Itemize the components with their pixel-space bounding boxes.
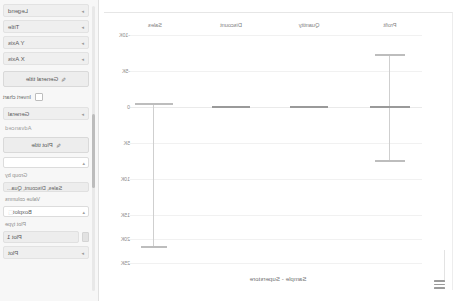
plot-title-button[interactable]: ✎ Plot title [3, 137, 89, 153]
sidebar-section-label: General [8, 111, 77, 117]
whisker-cap-upper [135, 103, 173, 105]
x-tick-label-discount: Discount [220, 22, 242, 28]
y-tick-label: -10K [106, 32, 130, 38]
general-title-button[interactable]: ✎ General title [3, 71, 89, 87]
boxplot-quantity[interactable] [290, 101, 328, 113]
plot-item-label: Plot 1 [3, 231, 79, 243]
invert-chart-checkbox-row[interactable]: Invert chart [3, 91, 89, 102]
sidebar-section-legend[interactable]: ▸ Legend [3, 4, 89, 17]
sidebar-section-label: Plot [8, 250, 77, 256]
group-by-label: Group by [3, 171, 89, 180]
checkbox-icon[interactable] [35, 93, 43, 101]
whisker-cap-upper [375, 54, 405, 56]
sidebar-section-label: X Axis [8, 56, 77, 62]
boxplot-sales[interactable] [134, 101, 174, 249]
sidebar-section-label: Y Axis [8, 40, 77, 46]
caret-up-icon: ▴ [79, 160, 85, 166]
y-tick-label: 10K [106, 176, 130, 182]
boxplot-discount[interactable] [212, 101, 250, 113]
median-line [290, 106, 328, 108]
gridline [130, 35, 422, 36]
plot-list-item[interactable]: Plot 1 [3, 231, 89, 243]
x-tick-label-quantity: Quantity [299, 22, 320, 28]
gridline [130, 263, 422, 264]
y-tick-label: 0 [106, 104, 130, 110]
boxplot-profit[interactable] [370, 53, 410, 163]
chart-pane: -10K -5K 0 5K 10K 15K 20K 25K Profit Qua… [99, 0, 459, 301]
sidebar-scrollbar[interactable] [92, 6, 95, 291]
group-by-input[interactable]: ▴ [3, 157, 89, 168]
sidebar-section-general[interactable]: ▸ General [3, 107, 89, 120]
median-line [212, 106, 250, 108]
sidebar-section-title[interactable]: ▸ Title [3, 20, 89, 33]
plot-type-label: Plot type [3, 220, 89, 229]
whisker-cap-lower [375, 160, 405, 162]
divider [444, 250, 445, 280]
chart-card: -10K -5K 0 5K 10K 15K 20K 25K Profit Qua… [104, 12, 453, 290]
plot-area[interactable]: -10K -5K 0 5K 10K 15K 20K 25K Profit Qua… [104, 13, 452, 290]
plot-title-button-label: Plot title [31, 142, 52, 148]
settings-sidebar: ▸ Legend ▸ Title ▸ Y Axis ▸ X Axis ✎ Gen… [0, 0, 99, 301]
y-tick-label: -5K [106, 68, 130, 74]
value-columns-tags[interactable]: Sales, Discount, Qua... [3, 182, 89, 192]
advanced-group-label: Advanced [5, 125, 89, 131]
invert-chart-label: Invert chart [3, 94, 31, 100]
value-columns-label: Value columns [3, 195, 89, 204]
mirrored-page-root: -10K -5K 0 5K 10K 15K 20K 25K Profit Qua… [0, 0, 459, 301]
sidebar-section-x-axis[interactable]: ▸ X Axis [3, 52, 89, 65]
drag-handle-icon[interactable] [82, 232, 89, 242]
pencil-icon: ✎ [56, 142, 61, 149]
x-tick-label-profit: Profit [383, 22, 396, 28]
pencil-icon: ✎ [61, 76, 66, 83]
y-tick-label: 25K [106, 260, 130, 266]
chevron-right-icon: ▸ [77, 40, 84, 46]
whisker [390, 55, 391, 161]
chevron-right-icon: ▸ [77, 111, 84, 117]
plot-type-value: Boxplot [13, 209, 79, 215]
chart-title: Sample - Superstore [104, 276, 452, 282]
general-title-button-label: General title [26, 76, 58, 82]
sidebar-section-label: Legend [8, 8, 77, 14]
whisker [154, 104, 155, 247]
chevron-right-icon: ▸ [77, 8, 84, 14]
y-tick-label: 20K [106, 236, 130, 242]
y-tick-label: 15K [106, 212, 130, 218]
whisker-cap-lower [141, 246, 167, 248]
sidebar-section-plot[interactable]: ▸ Plot [3, 246, 89, 259]
chevron-right-icon: ▸ [77, 56, 84, 62]
plot-type-glyph-icon: ⬚ [7, 209, 13, 215]
caret-up-icon: ▴ [79, 209, 85, 215]
median-line [370, 106, 410, 108]
sidebar-section-y-axis[interactable]: ▸ Y Axis [3, 36, 89, 49]
y-tick-label: 5K [106, 140, 130, 146]
x-tick-label-sales: Sales [148, 22, 162, 28]
chevron-right-icon: ▸ [77, 24, 84, 30]
plot-type-select[interactable]: ▴ Boxplot ⬚ [3, 206, 89, 217]
hamburger-menu-icon[interactable] [434, 280, 445, 289]
sidebar-section-label: Title [8, 24, 77, 30]
chevron-right-icon: ▸ [77, 250, 84, 256]
